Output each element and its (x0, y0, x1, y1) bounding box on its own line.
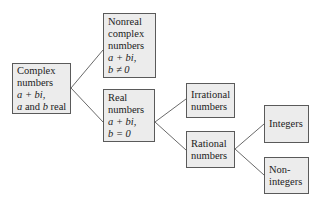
edge-real-rational (155, 122, 186, 150)
node-label: Non- (269, 164, 304, 176)
node-condition: a and b real (17, 101, 66, 113)
node-non-integers: Non- integers (264, 157, 309, 194)
node-integers: Integers (264, 105, 309, 143)
node-label: Real (108, 92, 150, 104)
node-formula: a + bi, (108, 52, 151, 64)
node-label: numbers (108, 40, 151, 52)
node-label: Rational (191, 138, 230, 150)
edge-real-irrational (155, 99, 186, 122)
node-condition: b ≠ 0 (108, 64, 151, 76)
node-formula: a + bi, (17, 89, 66, 101)
node-label: numbers (17, 77, 66, 89)
node-complex-numbers: Complex numbers a + bi, a and b real (12, 63, 71, 114)
node-label: complex (108, 28, 151, 40)
node-label: Irrational (191, 89, 230, 101)
node-label: Integers (269, 118, 304, 130)
node-label: integers (269, 176, 304, 188)
edge-rational-integers (235, 124, 264, 149)
node-irrational-numbers: Irrational numbers (186, 83, 235, 118)
number-classification-diagram: Complex numbers a + bi, a and b real Non… (0, 0, 320, 204)
node-label: Complex (17, 65, 66, 77)
node-condition: b = 0 (108, 128, 150, 140)
node-real-numbers: Real numbers a + bi, b = 0 (103, 89, 155, 142)
node-label: numbers (108, 104, 150, 116)
node-label: numbers (191, 101, 230, 113)
edge-rational-nonintegers (235, 149, 264, 175)
edge-complex-real (71, 88, 103, 122)
node-nonreal-complex-numbers: Nonreal complex numbers a + bi, b ≠ 0 (103, 13, 156, 78)
edge-complex-nonreal (71, 50, 103, 88)
node-formula: a + bi, (108, 116, 150, 128)
node-rational-numbers: Rational numbers (186, 131, 235, 168)
node-label: Nonreal (108, 16, 151, 28)
node-label: numbers (191, 150, 230, 162)
